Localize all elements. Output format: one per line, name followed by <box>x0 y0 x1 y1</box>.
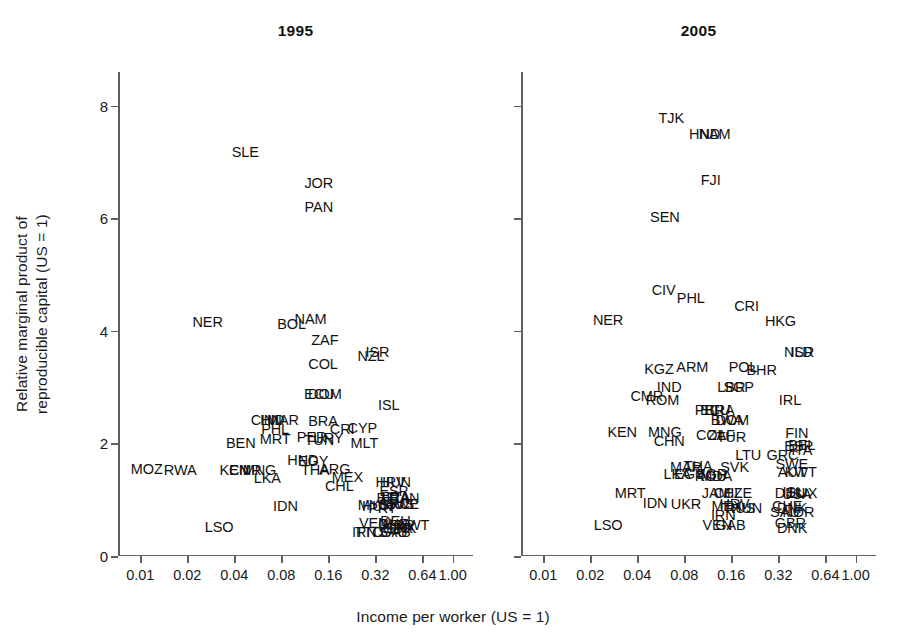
x-tick-label: 0.32 <box>361 567 389 583</box>
y-axis-spine <box>521 72 523 556</box>
x-tick-label: 1.00 <box>842 567 870 583</box>
data-point-label: FJI <box>701 173 721 188</box>
data-point-label: LKA <box>254 471 281 486</box>
x-tick <box>140 556 142 563</box>
x-tick <box>422 556 424 563</box>
data-point-label: URY <box>313 431 343 446</box>
plot-area-1995: 024680.010.020.040.080.160.320.641.00SLE… <box>118 72 473 556</box>
data-point-label: LSO <box>205 519 234 534</box>
y-tick <box>111 556 118 558</box>
x-tick-label: 0.16 <box>314 567 342 583</box>
x-tick-label: 0.04 <box>623 567 651 583</box>
y-tick <box>111 106 118 108</box>
y-tick-label: 8 <box>100 97 108 114</box>
y-tick <box>111 331 118 333</box>
data-point-label: MLT <box>351 436 379 451</box>
data-point-label: MOZ <box>131 462 163 477</box>
data-point-label: IRL <box>779 392 801 407</box>
data-point-label: ROM <box>646 392 680 407</box>
y-tick <box>514 443 521 445</box>
x-tick-label: 0.64 <box>408 567 436 583</box>
x-tick-label: 0.02 <box>173 567 201 583</box>
data-point-label: MRT <box>615 486 646 501</box>
data-point-label: KWT <box>785 464 817 479</box>
data-point-label: NAM <box>699 127 731 142</box>
data-point-label: BHR <box>746 363 776 378</box>
data-point-label: RWA <box>164 463 197 478</box>
y-tick-label: 6 <box>100 210 108 227</box>
y-axis-title: Relative marginal product of reproducibl… <box>12 124 52 504</box>
y-tick <box>111 443 118 445</box>
y-tick <box>514 556 521 558</box>
x-tick <box>328 556 330 563</box>
y-tick-label: 2 <box>100 435 108 452</box>
data-point-label: NER <box>192 315 222 330</box>
data-point-label: KGZ <box>644 362 674 377</box>
data-point-label: ARM <box>676 360 708 375</box>
data-point-label: TUR <box>717 429 747 444</box>
data-point-label: SEN <box>650 210 680 225</box>
y-axis-spine <box>118 72 120 556</box>
x-tick-label: 0.64 <box>811 567 839 583</box>
data-point-label: BEN <box>226 436 256 451</box>
panel-title-2005: 2005 <box>521 22 876 40</box>
data-point-label: CHN <box>654 433 685 448</box>
panel-title-1995: 1995 <box>118 22 473 40</box>
data-point-label: BGR <box>696 467 727 482</box>
x-tick <box>375 556 377 563</box>
y-tick <box>514 218 521 220</box>
data-point-label: NER <box>593 312 623 327</box>
data-point-label: SGP <box>723 380 753 395</box>
panel-2005: 20050.010.020.040.080.160.320.641.00TJKH… <box>521 0 876 644</box>
plot-area-2005: 0.010.020.040.080.160.320.641.00TJKHNDNA… <box>521 72 876 556</box>
x-tick <box>856 556 858 563</box>
x-tick-label: 0.01 <box>529 567 557 583</box>
x-tick <box>684 556 686 563</box>
data-point-label: DOM <box>715 413 749 428</box>
y-tick <box>111 218 118 220</box>
y-tick-label: 0 <box>100 548 108 565</box>
x-tick <box>590 556 592 563</box>
data-point-label: UKR <box>671 497 701 512</box>
data-point-label: MRT <box>260 432 291 447</box>
x-tick <box>234 556 236 563</box>
x-tick <box>778 556 780 563</box>
data-point-label: CYP <box>348 421 378 436</box>
data-point-label: ZAF <box>311 333 338 348</box>
x-tick <box>731 556 733 563</box>
y-tick <box>514 331 521 333</box>
x-tick <box>187 556 189 563</box>
data-point-label: PHL <box>677 291 705 306</box>
data-point-label: CRI <box>734 299 759 314</box>
y-tick-label: 4 <box>100 322 108 339</box>
panel-1995: 1995024680.010.020.040.080.160.320.641.0… <box>118 0 473 644</box>
figure-root: Relative marginal product of reproducibl… <box>0 0 906 644</box>
data-point-label: IDN <box>273 499 298 514</box>
data-point-label: KEN <box>607 425 637 440</box>
y-tick <box>514 106 521 108</box>
x-tick <box>825 556 827 563</box>
x-tick <box>453 556 455 563</box>
data-point-label: DOM <box>308 387 342 402</box>
x-tick-label: 0.32 <box>764 567 792 583</box>
data-point-label: DNK <box>777 521 807 536</box>
data-point-label: PAN <box>305 200 333 215</box>
x-tick <box>281 556 283 563</box>
data-point-label: TJK <box>659 111 684 126</box>
x-tick <box>543 556 545 563</box>
data-point-label: NAM <box>295 311 327 326</box>
data-point-label: LSO <box>594 518 623 533</box>
x-tick-label: 0.04 <box>220 567 248 583</box>
data-point-label: SLE <box>232 145 259 160</box>
data-point-label: HKG <box>765 314 796 329</box>
x-tick-label: 0.02 <box>576 567 604 583</box>
data-point-label: ISR <box>790 345 814 360</box>
data-point-label: GAB <box>715 518 745 533</box>
x-axis-spine <box>118 555 473 557</box>
data-point-label: ISR <box>366 345 390 360</box>
data-point-label: COL <box>308 357 338 372</box>
data-point-label: SAU <box>378 525 408 540</box>
data-point-label: ISL <box>378 398 399 413</box>
x-tick <box>637 556 639 563</box>
x-tick-label: 0.08 <box>267 567 295 583</box>
